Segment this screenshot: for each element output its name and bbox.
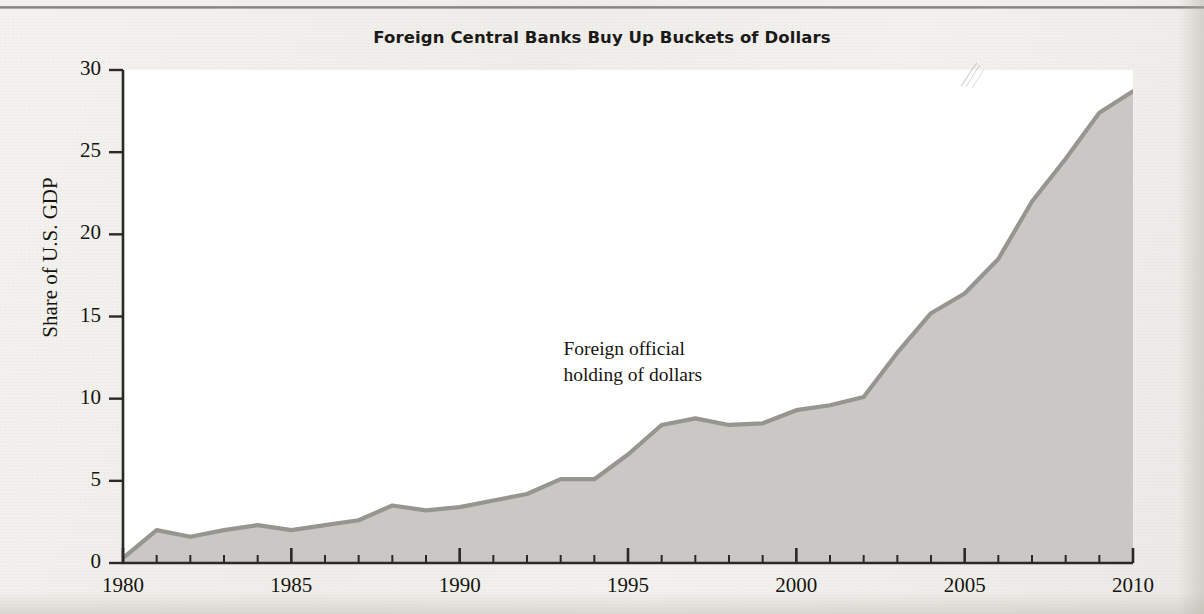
series-annotation-label: Foreign official holding of dollars (563, 336, 702, 387)
y-axis-tick-label: 5 (3, 467, 101, 492)
y-axis-tick-label: 10 (3, 385, 101, 410)
y-axis-tick-label: 30 (3, 56, 101, 81)
x-axis-tick-label: 2000 (736, 573, 856, 598)
x-axis-tick-label: 2010 (1073, 573, 1193, 598)
x-axis-tick-label: 2005 (905, 573, 1025, 598)
x-axis-tick-label: 1990 (400, 573, 520, 598)
y-axis-tick-label: 15 (3, 303, 101, 328)
y-axis-tick-label: 20 (3, 220, 101, 245)
y-axis-tick-label: 25 (3, 138, 101, 163)
y-axis-tick-label: 0 (3, 549, 101, 574)
chart-figure: Share of U.S. GDP 051015202530 198019851… (0, 0, 1204, 614)
x-axis-tick-label: 1985 (231, 573, 351, 598)
x-axis-tick-label: 1995 (568, 573, 688, 598)
chart-svg (0, 0, 1204, 614)
paper-smudge-icon (955, 58, 995, 92)
x-axis-tick-label: 1980 (63, 573, 183, 598)
